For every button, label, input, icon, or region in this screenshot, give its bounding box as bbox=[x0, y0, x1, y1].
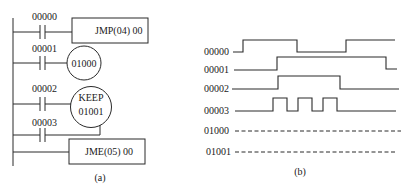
contact-label-00001: 00001 bbox=[32, 43, 57, 54]
contact-label-00003: 00003 bbox=[32, 117, 57, 128]
waveform-00000 bbox=[233, 40, 395, 52]
signal-label-00002: 00002 bbox=[204, 83, 229, 94]
contact-label-00002: 00002 bbox=[32, 83, 57, 94]
rung-jmp: 00000 JMP(04) 00 bbox=[13, 11, 148, 43]
contact-label-00000: 00000 bbox=[32, 11, 57, 22]
ladder-diagram: 00000 JMP(04) 00 00001 01000 00002 bbox=[13, 11, 148, 184]
waveform-00003 bbox=[235, 98, 396, 111]
signal-label-01001: 01001 bbox=[206, 146, 231, 157]
rung-jme: JME(05) 00 bbox=[13, 139, 145, 164]
caption-b: (b) bbox=[294, 166, 306, 178]
timing-diagram: 00000 00001 00002 00003 01000 01001 (b) bbox=[204, 40, 401, 178]
signal-label-00000: 00000 bbox=[204, 46, 229, 57]
waveform-00001 bbox=[234, 57, 397, 70]
coil-label-01000: 01000 bbox=[72, 58, 97, 69]
signal-label-00003: 00003 bbox=[204, 105, 229, 116]
diagram-canvas: 00000 JMP(04) 00 00001 01000 00002 bbox=[0, 0, 408, 188]
jmp-instruction-label: JMP(04) 00 bbox=[95, 25, 143, 37]
rung-coil-01000: 00001 01000 bbox=[13, 43, 101, 80]
keep-label: KEEP bbox=[79, 92, 104, 103]
signal-label-01000: 01000 bbox=[204, 125, 229, 136]
caption-a: (a) bbox=[94, 172, 105, 184]
keep-address-label: 01001 bbox=[79, 106, 104, 117]
waveform-00002 bbox=[232, 76, 399, 89]
jme-instruction-label: JME(05) 00 bbox=[85, 146, 133, 158]
rung-keep-set: 00002 KEEP 01001 bbox=[13, 83, 112, 128]
signal-label-00001: 00001 bbox=[204, 64, 229, 75]
rung-keep-reset: 00003 bbox=[13, 117, 100, 142]
